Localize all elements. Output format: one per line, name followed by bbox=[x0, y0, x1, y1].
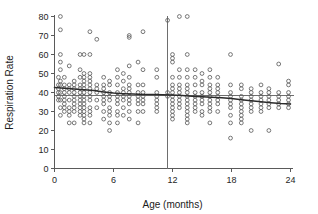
scatter-point bbox=[127, 87, 131, 91]
scatter-point bbox=[78, 75, 82, 79]
scatter-point bbox=[78, 98, 82, 102]
scatter-point bbox=[67, 121, 71, 125]
scatter-point bbox=[121, 87, 125, 91]
y-tick-label: 40 bbox=[38, 88, 48, 98]
scatter-point bbox=[216, 91, 220, 95]
scatter-point bbox=[127, 75, 131, 79]
scatter-point bbox=[229, 91, 233, 95]
scatter-point bbox=[200, 110, 204, 114]
scatter-point bbox=[155, 102, 159, 106]
scatter-point bbox=[200, 98, 204, 102]
scatter-point bbox=[171, 56, 175, 60]
scatter-point bbox=[95, 83, 99, 87]
scatter-point bbox=[259, 106, 263, 110]
scatter-point bbox=[82, 79, 86, 83]
scatter-point bbox=[59, 113, 63, 117]
x-axis-title: Age (months) bbox=[142, 199, 202, 210]
scatter-point bbox=[171, 102, 175, 106]
scatter-point bbox=[127, 98, 131, 102]
scatter-point bbox=[267, 129, 271, 133]
scatter-point bbox=[229, 106, 233, 110]
respiration-rate-scatter-figure: 0102030405060708006121824Age (months)Res… bbox=[0, 0, 318, 214]
scatter-point bbox=[155, 106, 159, 110]
scatter-point bbox=[208, 75, 212, 79]
scatter-point bbox=[239, 110, 243, 114]
scatter-point bbox=[108, 110, 112, 114]
scatter-point bbox=[200, 91, 204, 95]
scatter-point bbox=[185, 102, 189, 106]
scatter-point bbox=[267, 98, 271, 102]
scatter-point bbox=[185, 15, 189, 19]
scatter-points-group bbox=[57, 15, 291, 140]
scatter-point bbox=[277, 106, 281, 110]
scatter-point bbox=[116, 113, 120, 117]
scatter-point bbox=[88, 30, 92, 34]
scatter-point bbox=[78, 110, 82, 114]
scatter-point bbox=[78, 91, 82, 95]
scatter-point bbox=[229, 113, 233, 117]
scatter-point bbox=[127, 110, 131, 114]
scatter-point bbox=[185, 117, 189, 121]
scatter-point bbox=[82, 83, 86, 87]
scatter-point bbox=[193, 91, 197, 95]
scatter-point bbox=[121, 113, 125, 117]
scatter-point bbox=[216, 83, 220, 87]
scatter-point bbox=[193, 75, 197, 79]
scatter-point bbox=[88, 91, 92, 95]
scatter-point bbox=[259, 91, 263, 95]
scatter-point bbox=[88, 98, 92, 102]
scatter-point bbox=[127, 117, 131, 121]
scatter-point bbox=[216, 102, 220, 106]
scatter-point bbox=[141, 68, 145, 72]
scatter-point bbox=[200, 83, 204, 87]
scatter-point bbox=[78, 102, 82, 106]
scatter-point bbox=[141, 102, 145, 106]
scatter-point bbox=[108, 129, 112, 133]
scatter-point bbox=[249, 91, 253, 95]
scatter-point bbox=[121, 106, 125, 110]
scatter-point bbox=[141, 110, 145, 114]
scatter-point bbox=[208, 102, 212, 106]
scatter-point bbox=[78, 83, 82, 87]
scatter-point bbox=[102, 102, 106, 106]
scatter-point bbox=[141, 30, 145, 34]
scatter-point bbox=[67, 113, 71, 117]
x-tick-label: 6 bbox=[111, 175, 116, 185]
scatter-point bbox=[108, 121, 112, 125]
scatter-point bbox=[136, 60, 140, 64]
scatter-point bbox=[177, 83, 181, 87]
scatter-point bbox=[136, 102, 140, 106]
scatter-point bbox=[208, 110, 212, 114]
scatter-point bbox=[72, 106, 76, 110]
scatter-point bbox=[59, 79, 63, 83]
y-tick-label: 30 bbox=[38, 107, 48, 117]
scatter-point bbox=[239, 102, 243, 106]
scatter-point bbox=[200, 113, 204, 117]
scatter-point bbox=[88, 72, 92, 76]
scatter-point bbox=[177, 102, 181, 106]
y-axis-title: Respiration Rate bbox=[4, 55, 15, 130]
scatter-point bbox=[78, 106, 82, 110]
scatter-point bbox=[78, 68, 82, 72]
scatter-point bbox=[127, 83, 131, 87]
scatter-point bbox=[141, 98, 145, 102]
scatter-point bbox=[267, 87, 271, 91]
scatter-point bbox=[136, 98, 140, 102]
scatter-point bbox=[193, 110, 197, 114]
scatter-point bbox=[208, 91, 212, 95]
scatter-point bbox=[82, 121, 86, 125]
scatter-point bbox=[102, 87, 106, 91]
scatter-point bbox=[59, 15, 63, 19]
scatter-point bbox=[95, 98, 99, 102]
scatter-point bbox=[116, 68, 120, 72]
scatter-point bbox=[171, 117, 175, 121]
scatter-point bbox=[62, 75, 66, 79]
scatter-point bbox=[185, 113, 189, 117]
scatter-point bbox=[277, 91, 281, 95]
scatter-point bbox=[185, 110, 189, 114]
scatter-point bbox=[59, 60, 63, 64]
scatter-point bbox=[239, 117, 243, 121]
x-tick-label: 0 bbox=[52, 175, 57, 185]
scatter-point bbox=[62, 91, 66, 95]
x-tick-label: 24 bbox=[285, 175, 295, 185]
